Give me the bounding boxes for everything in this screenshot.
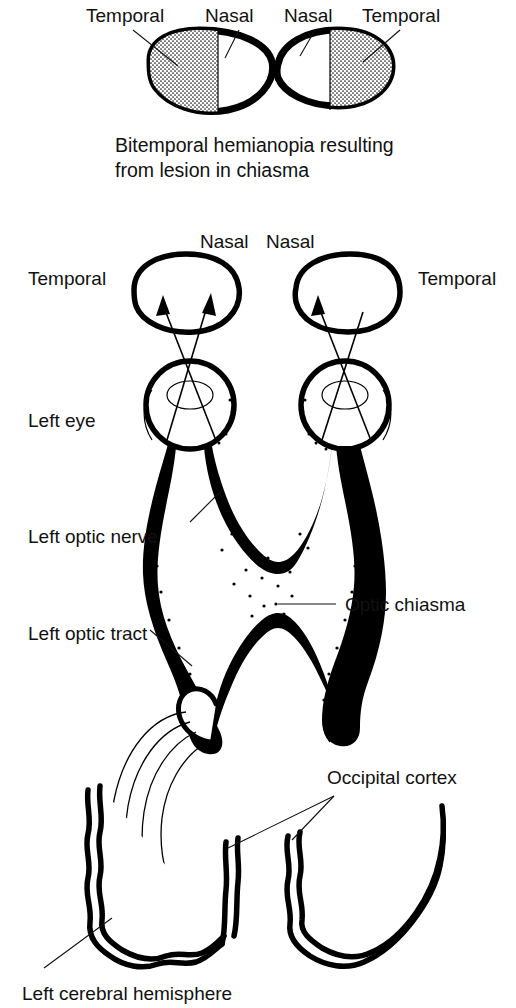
right-visual-field <box>277 24 402 120</box>
leader-optic-nerve <box>190 490 222 522</box>
left-occipital-pole-outer <box>222 842 227 944</box>
visual-pathway-figure: Temporal Nasal Nasal Temporal Bitemporal… <box>0 0 516 1008</box>
pathway-left-nasal-label: Nasal <box>200 231 249 252</box>
left-projection-field <box>134 254 239 332</box>
right-hemisphere-inner-gyri <box>299 806 443 957</box>
left-visual-field <box>140 24 273 120</box>
pathway-right-nasal-label: Nasal <box>266 231 315 252</box>
pathway-left-temporal-label: Temporal <box>28 268 106 289</box>
left-eye-label: Left eye <box>28 410 96 431</box>
left-hemisphere-inner-gyri <box>99 786 224 959</box>
top-field-panel: Temporal Nasal Nasal Temporal Bitemporal… <box>86 5 440 181</box>
occipital-cortex-label: Occipital cortex <box>327 767 457 788</box>
right-field-shading <box>330 24 402 120</box>
top-left-nasal-label: Nasal <box>205 5 254 26</box>
top-left-temporal-label: Temporal <box>86 5 164 26</box>
caption-line-1: Bitemporal hemianopia resulting <box>115 134 394 156</box>
right-projection-field <box>295 254 400 332</box>
left-eye <box>144 361 234 451</box>
caption-line-2: from lesion in chiasma <box>115 159 309 181</box>
left-optic-nerve-label: Left optic nerve <box>28 526 158 547</box>
left-optic-tract-label: Left optic tract <box>28 623 148 644</box>
top-right-temporal-label: Temporal <box>362 5 440 26</box>
pathway-right-temporal-label: Temporal <box>418 268 496 289</box>
right-cerebral-hemisphere <box>287 806 443 966</box>
left-cerebral-hemisphere-label: Left cerebral hemisphere <box>22 983 232 1004</box>
lateral-geniculate-hook <box>178 689 216 742</box>
optic-chiasma-label: Optic chiasma <box>345 594 466 615</box>
chiasma-upper-body <box>204 446 332 574</box>
pathway-panel: Nasal Nasal Temporal Temporal Left eye L… <box>22 231 496 1004</box>
top-right-nasal-label: Nasal <box>284 5 333 26</box>
left-occipital-pole-inner <box>234 838 239 936</box>
